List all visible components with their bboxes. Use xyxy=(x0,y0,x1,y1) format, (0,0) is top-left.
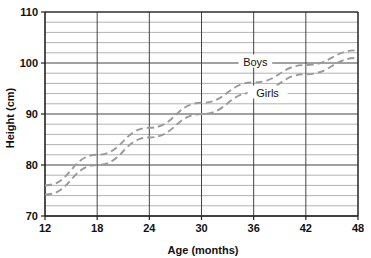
y-tick-label: 70 xyxy=(26,210,38,222)
x-tick-label: 18 xyxy=(91,222,103,234)
growth-chart: 12182430364248 708090100110 BoysGirls Ag… xyxy=(0,0,371,258)
x-tick-label: 48 xyxy=(352,222,364,234)
x-tick-label: 42 xyxy=(300,222,312,234)
series-annotation-boys: Boys xyxy=(243,56,268,68)
x-tick-label: 24 xyxy=(143,222,156,234)
x-tick-label: 30 xyxy=(195,222,207,234)
series-annotation-girls: Girls xyxy=(256,87,279,99)
x-tick-label: 36 xyxy=(248,222,260,234)
y-tick-label: 100 xyxy=(20,57,38,69)
y-tick-label: 90 xyxy=(26,108,38,120)
chart-canvas: 12182430364248 708090100110 BoysGirls Ag… xyxy=(0,0,371,258)
x-axis-title: Age (months) xyxy=(168,244,239,256)
y-tick-label: 80 xyxy=(26,159,38,171)
x-tick-label: 12 xyxy=(39,222,51,234)
y-axis-title: Height (cm) xyxy=(4,87,16,148)
chart-background xyxy=(0,0,371,258)
y-tick-label: 110 xyxy=(20,6,38,18)
